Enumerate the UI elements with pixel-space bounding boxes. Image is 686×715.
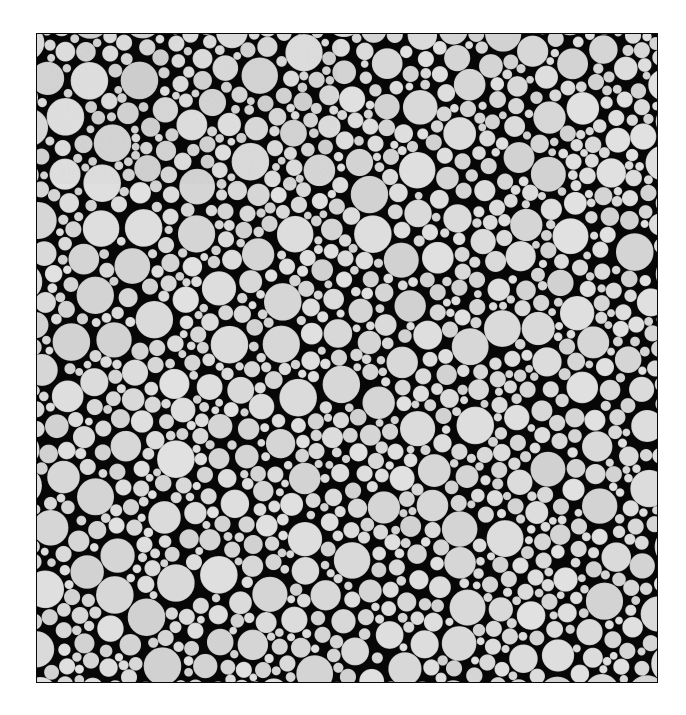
- figure-root: Grayscale image of a densely packed, pol…: [0, 0, 686, 715]
- disk-packing-canvas: [37, 34, 657, 682]
- packing-panel: [36, 33, 658, 683]
